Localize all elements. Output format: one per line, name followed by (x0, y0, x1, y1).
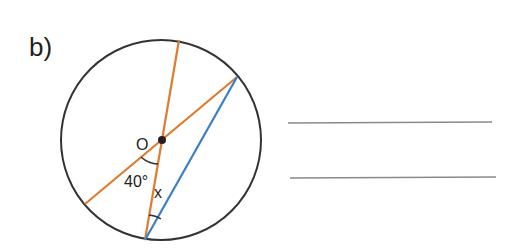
circle-theorem-figure: b) O 40° x (0, 0, 530, 249)
angle-arc-40 (141, 157, 158, 164)
answer-line-2[interactable] (290, 177, 496, 178)
given-angle-label: 40° (124, 173, 148, 190)
center-label: O (136, 136, 148, 153)
question-label: b) (29, 32, 52, 62)
unknown-angle-label: x (154, 184, 162, 201)
answer-line-1[interactable] (288, 122, 492, 123)
center-point (158, 136, 166, 144)
